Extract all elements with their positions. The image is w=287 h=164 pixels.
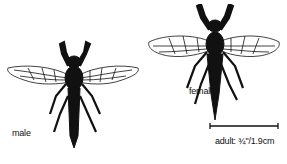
male-label: male <box>12 128 31 138</box>
female-label: female <box>189 86 215 96</box>
female-fly-icon <box>145 4 281 120</box>
scale-label: adult: ¾"/1.9cm <box>215 136 274 146</box>
scale-bar <box>209 123 279 129</box>
